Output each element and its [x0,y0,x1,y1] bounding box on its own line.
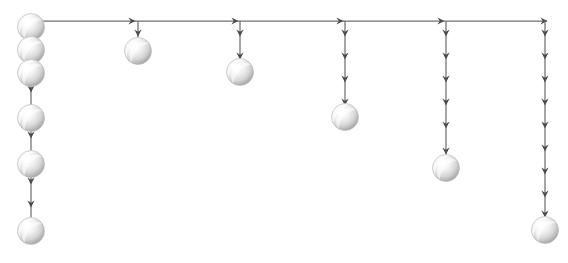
ball-marker [125,38,152,65]
ball-marker [18,105,45,132]
drop-line-4 [442,21,449,158]
ball-marker [433,155,460,182]
drop-line-2 [236,21,243,62]
projectile-ball-series [125,38,559,244]
drop-line-3 [341,21,348,107]
ball-marker [227,59,254,86]
ball-marker [532,217,559,244]
launch-path-group [31,18,547,25]
physics-figure [0,0,568,263]
drop-line-5 [541,21,548,220]
ball-marker [18,218,45,245]
ball-marker [18,151,45,178]
figure-canvas [0,0,568,263]
ball-marker [332,104,359,131]
ball-marker [18,60,45,87]
